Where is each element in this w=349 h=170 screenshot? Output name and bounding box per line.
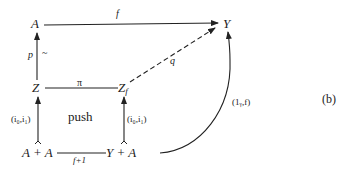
- label-push: push: [68, 110, 93, 123]
- label-f-plus-1: f+1: [73, 156, 86, 165]
- arrow-one-y-f: [160, 32, 230, 153]
- node-Zf-subscript: f: [125, 86, 128, 96]
- node-Y: Y: [223, 17, 230, 30]
- label-p: p: [28, 50, 33, 60]
- label-tilde: ~: [42, 48, 47, 58]
- label-f: f: [116, 9, 119, 19]
- node-A: A: [31, 17, 39, 30]
- label-i-right: (i₀,i₁): [127, 115, 147, 124]
- node-Z: Z: [32, 81, 39, 94]
- node-A-plus-A: A + A: [22, 146, 53, 159]
- label-q: q: [170, 56, 175, 66]
- diagram-tag: (b): [322, 93, 336, 105]
- node-Y-plus-A: Y + A: [106, 146, 136, 159]
- pushout-diagram: A Y Z Zf A + A Y + A f p ~ π q (i₀,i₁) (…: [0, 0, 349, 170]
- node-Zf: Zf: [118, 81, 128, 96]
- arrow-f: [44, 23, 218, 25]
- label-i-left: (i₀,i₁): [11, 115, 31, 124]
- label-pi: π: [77, 78, 82, 88]
- label-one-y-f: (1ᵧ,f): [232, 98, 250, 107]
